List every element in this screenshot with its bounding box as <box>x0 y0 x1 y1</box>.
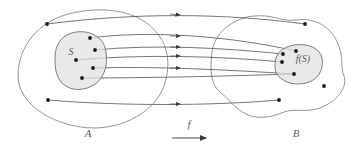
point-s3 <box>74 58 78 62</box>
subset-s-outline <box>55 32 106 90</box>
mapping-curve-s1-b1 <box>90 34 296 51</box>
mapping-curve-s2-b2 <box>95 47 283 54</box>
point-s1 <box>88 36 92 40</box>
point-b7 <box>277 98 281 102</box>
set-a-label: A <box>84 127 92 139</box>
subset-fs-outline <box>275 45 322 84</box>
set-a-outside-points <box>45 22 50 102</box>
mapping-curve-a1-b5 <box>47 16 305 24</box>
point-b2 <box>281 52 285 56</box>
subset-s-label: S <box>69 46 74 57</box>
subset-fs-label: f(S) <box>296 53 311 65</box>
set-mapping-svg: S f(S) A B f <box>0 0 361 148</box>
mapping-curve-s4-b4 <box>93 67 294 74</box>
arrowhead-marker-1 <box>170 14 180 15</box>
point-s4 <box>91 66 95 70</box>
point-s5 <box>80 76 84 80</box>
point-s2 <box>93 48 97 52</box>
diagram-canvas: S f(S) A B f <box>0 0 361 148</box>
mapping-arrowheads <box>170 14 180 104</box>
point-b6 <box>322 84 326 88</box>
mapping-curve-s5-b4 <box>82 74 294 78</box>
mapping-curve-a2-b7 <box>48 100 279 105</box>
point-a2 <box>46 98 50 102</box>
point-a1 <box>45 22 49 26</box>
point-b4 <box>292 72 296 76</box>
point-b5 <box>303 22 307 26</box>
function-label: f <box>187 118 192 130</box>
point-b3 <box>280 60 284 64</box>
set-b-label: B <box>293 127 300 139</box>
